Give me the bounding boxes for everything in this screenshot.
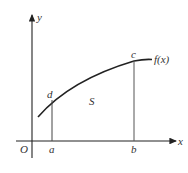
- curve-f-of-x: [38, 59, 152, 117]
- point-a-label: a: [49, 144, 55, 155]
- region-label: S: [89, 96, 95, 107]
- point-b-label: b: [131, 144, 137, 155]
- origin-label: O: [20, 144, 28, 155]
- curve-label: f(x): [154, 54, 169, 65]
- point-d-label: d: [47, 89, 53, 100]
- x-axis-label: x: [178, 136, 183, 147]
- diagram-svg: [0, 0, 188, 173]
- y-axis-label: y: [37, 12, 42, 23]
- point-c-label: c: [131, 49, 136, 60]
- area-under-curve-diagram: y x O a b c d f(x) S: [0, 0, 188, 173]
